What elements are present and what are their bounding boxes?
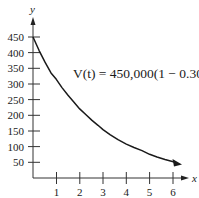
x-tick-label: 1 xyxy=(54,186,60,198)
y-tick-label: 400 xyxy=(8,47,25,59)
y-tick-label: 250 xyxy=(8,94,25,106)
y-tick-label: 100 xyxy=(8,141,25,153)
x-tick-label: 5 xyxy=(147,186,153,198)
y-axis-arrow-icon xyxy=(31,17,36,25)
formula-annotation: V(t) = 450,000(1 − 0.30)t xyxy=(73,62,199,81)
x-tick-label: 2 xyxy=(77,186,83,198)
decay-curve xyxy=(33,37,176,162)
chart: y x 50 100 150 200 250 300 350 400 450 1… xyxy=(0,0,199,198)
y-ticks xyxy=(28,37,40,162)
y-tick-label: 150 xyxy=(8,125,25,137)
y-tick-label: 300 xyxy=(8,78,25,90)
y-tick-label: 200 xyxy=(8,109,25,121)
y-tick-labels: 50 100 150 200 250 300 350 400 450 xyxy=(8,31,25,168)
x-tick-label: 3 xyxy=(100,186,106,198)
curve-arrow-icon xyxy=(173,159,183,167)
x-tick-labels: 1 2 3 4 5 6 xyxy=(54,186,177,198)
x-tick-label: 4 xyxy=(124,186,130,198)
y-tick-label: 350 xyxy=(8,62,25,74)
y-axis-label: y xyxy=(29,3,35,15)
y-tick-label: 450 xyxy=(8,31,25,43)
x-tick-label: 6 xyxy=(170,186,176,198)
x-axis-label: x xyxy=(191,172,197,184)
y-tick-label: 50 xyxy=(13,156,25,168)
x-axis-arrow-icon xyxy=(181,176,189,181)
